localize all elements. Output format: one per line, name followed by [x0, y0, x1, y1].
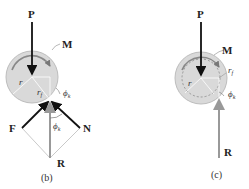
label-phi-c: ϕk: [228, 89, 236, 100]
label-phi-mid-b: ϕk: [53, 121, 61, 132]
label-n: N: [83, 122, 91, 134]
caption-b: (b): [41, 172, 53, 184]
figure-c: P M rf r ϕk R (c): [175, 8, 236, 181]
diagram: P M r rf ϕk ϕk F N R (b) P M rf r ϕk: [0, 0, 249, 189]
label-r-b-force: R: [57, 157, 66, 169]
label-p-b: P: [28, 8, 35, 20]
label-f: F: [9, 122, 16, 134]
label-r-c: r: [188, 78, 192, 88]
label-phi-top-b: ϕk: [63, 88, 71, 99]
label-m-b: M: [62, 38, 73, 50]
label-p-c: P: [197, 8, 204, 20]
figure-b: P M r rf ϕk ϕk F N R (b): [6, 8, 91, 184]
label-r-b: r: [19, 77, 23, 87]
label-rf-c: rf: [228, 65, 235, 76]
label-r-c-force: R: [224, 146, 233, 158]
caption-c: (c): [211, 169, 222, 181]
force-f: [22, 102, 48, 128]
label-m-c: M: [222, 44, 233, 56]
